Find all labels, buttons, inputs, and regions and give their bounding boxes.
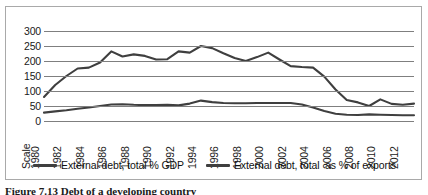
legend-label-exports: External debt, total as % of exports <box>234 159 396 171</box>
plot-area <box>44 31 414 121</box>
gridline <box>44 31 414 32</box>
y-axis: 300250200150100500 <box>11 25 41 127</box>
legend-line-icon-exports <box>206 164 230 167</box>
y-axis-tick-label: 100 <box>11 86 41 97</box>
chart-legend: External debt, total % GDP External debt… <box>6 155 423 175</box>
gridline <box>44 106 414 107</box>
legend-label-gdp: External debt, total % GDP <box>61 159 184 171</box>
gridline <box>44 61 414 62</box>
y-axis-tick-label: 300 <box>11 26 41 37</box>
y-axis-tick-label: 150 <box>11 71 41 82</box>
gridline <box>44 46 414 47</box>
y-axis-tick-label: 0 <box>11 116 41 127</box>
figure-caption: Figure 7.13 Debt of a developing country <box>5 185 428 195</box>
gridline <box>44 121 414 122</box>
legend-item-exports: External debt, total as % of exports <box>206 159 396 171</box>
gridline <box>44 76 414 77</box>
gridline <box>44 91 414 92</box>
legend-item-gdp: External debt, total % GDP <box>33 159 184 171</box>
chart-frame: 300250200150100500 Scale1980198219841986… <box>5 6 422 180</box>
legend-line-icon-gdp <box>33 164 57 167</box>
y-axis-tick-label: 50 <box>11 101 41 112</box>
figure-container: 300250200150100500 Scale1980198219841986… <box>0 0 428 195</box>
y-axis-tick-label: 200 <box>11 56 41 67</box>
y-axis-tick-label: 250 <box>11 41 41 52</box>
